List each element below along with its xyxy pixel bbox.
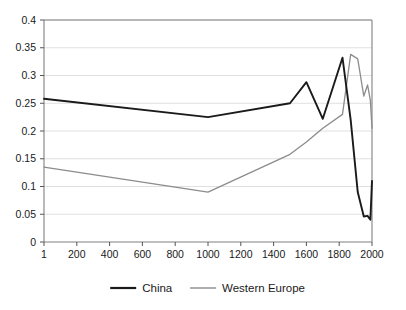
y-tick-label: 0.05	[16, 208, 37, 220]
chart-container: 1200400600800100012001400160018002000 00…	[0, 0, 406, 310]
x-tick-label: 1400	[262, 248, 286, 260]
legend-label-western-europe: Western Europe	[222, 282, 305, 294]
x-tick-label: 1000	[196, 248, 220, 260]
x-tick-label: 600	[134, 248, 152, 260]
y-tick-label: 0.15	[16, 152, 37, 164]
y-tick-label: 0.2	[21, 125, 36, 137]
y-tick-label: 0.4	[21, 14, 36, 26]
y-tick-label: 0.25	[16, 97, 37, 109]
x-tick-label: 1200	[229, 248, 253, 260]
chart-background	[0, 0, 406, 310]
x-tick-label: 400	[101, 248, 119, 260]
y-tick-label: 0.1	[21, 180, 36, 192]
x-tick-label: 1600	[295, 248, 319, 260]
x-tick-label: 1	[41, 248, 47, 260]
y-tick-label: 0.35	[16, 41, 37, 53]
y-tick-label: 0.3	[21, 69, 36, 81]
y-tick-label: 0	[30, 236, 36, 248]
x-tick-label: 200	[68, 248, 86, 260]
x-tick-label: 1800	[328, 248, 352, 260]
x-tick-label: 800	[166, 248, 184, 260]
line-chart: 1200400600800100012001400160018002000 00…	[0, 0, 406, 310]
legend-label-china: China	[142, 282, 173, 294]
x-tick-label: 2000	[360, 248, 384, 260]
